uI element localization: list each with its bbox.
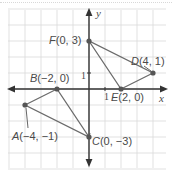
y-axis-label: y	[96, 8, 101, 19]
point-name-f: F	[49, 34, 56, 46]
x-unit-tick-label: 1	[104, 92, 109, 102]
plane-svg	[0, 0, 172, 176]
point-a	[22, 102, 27, 107]
point-name-c: C	[92, 135, 100, 147]
leader-a	[26, 108, 28, 128]
point-coords-f: (0, 3)	[56, 34, 82, 46]
point-b	[54, 86, 59, 91]
point-label-f: F(0, 3)	[49, 35, 81, 46]
coordinate-plane: y x 1 1 F(0, 3) D(4, 1) B(−2, 0) E(2, 0)…	[0, 0, 172, 176]
point-c	[86, 134, 91, 139]
point-coords-d: (4, 1)	[139, 55, 165, 67]
point-label-d: D(4, 1)	[131, 56, 165, 67]
point-label-a: A(−4, −1)	[12, 131, 58, 142]
point-coords-b: (−2, 0)	[37, 72, 69, 84]
point-coords-e: (2, 0)	[118, 91, 144, 103]
point-label-b: B(−2, 0)	[30, 73, 69, 84]
y-unit-tick-label: 1	[81, 71, 86, 81]
top-border	[0, 2, 172, 3]
point-label-c: C(0, −3)	[92, 136, 132, 147]
x-axis-label: x	[159, 93, 164, 104]
point-f	[86, 38, 91, 43]
point-coords-c: (0, −3)	[100, 135, 132, 147]
point-label-e: E(2, 0)	[111, 92, 144, 103]
point-name-d: D	[131, 55, 139, 67]
point-d	[150, 70, 155, 75]
point-coords-a: (−4, −1)	[19, 130, 58, 142]
